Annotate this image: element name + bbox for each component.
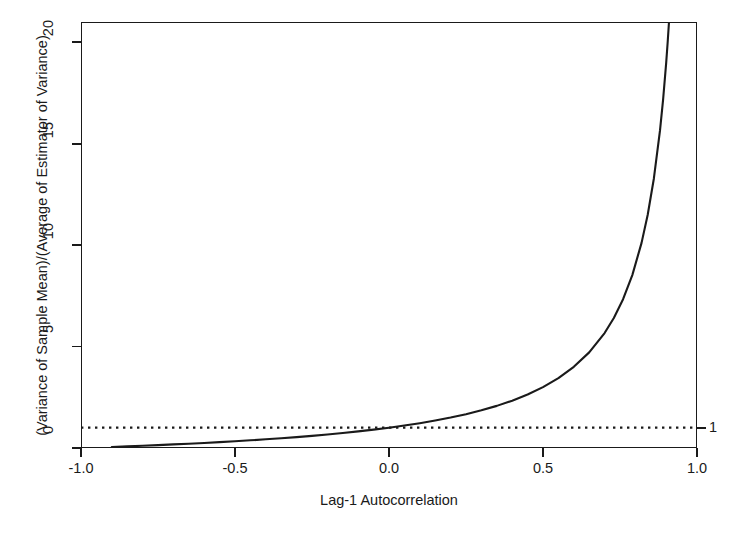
- x-tick-mark: [388, 448, 390, 457]
- y-tick-mark: [72, 143, 81, 145]
- right-axis-tick-mark: [697, 427, 706, 429]
- y-tick-mark: [72, 346, 81, 348]
- x-tick-mark: [234, 448, 236, 457]
- x-tick-label: 0.0: [359, 461, 419, 476]
- x-tick-label: -1.0: [51, 461, 111, 476]
- y-tick-mark: [72, 244, 81, 246]
- x-axis-title: Lag-1 Autocorrelation: [81, 492, 697, 508]
- x-tick-label: -0.5: [205, 461, 265, 476]
- x-tick-label: 0.5: [513, 461, 573, 476]
- data-curve: [112, 22, 669, 447]
- x-tick-mark: [696, 448, 698, 457]
- x-tick-mark: [80, 448, 82, 457]
- top-crop-artifact: [300, 0, 720, 5]
- x-tick-label: 1.0: [667, 461, 727, 476]
- x-tick-mark: [542, 448, 544, 457]
- y-tick-mark: [72, 41, 81, 43]
- right-axis-tick-label: 1: [709, 420, 717, 435]
- y-axis-title: (Variance of Sample Mean)/(Average of Es…: [35, 21, 50, 451]
- chart-figure: 05101520 -1.0-0.50.00.51.0 1 (Variance o…: [0, 0, 740, 535]
- plot-area: [81, 22, 697, 448]
